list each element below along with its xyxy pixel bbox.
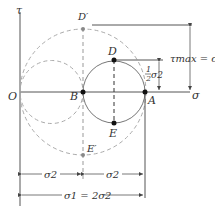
dim-right-label: σ2 [106,169,119,180]
half-sigma-sym: σ2 [151,70,163,80]
point-e-prime [81,153,85,157]
dim-left-label: σ2 [44,169,57,180]
sigma-axis-label: σ [192,89,200,102]
point-d-prime [81,27,85,31]
point-a [143,90,148,95]
label-a: A [147,94,156,107]
tau-max-label: τmax = σ2 [170,53,215,64]
label-b: B [69,90,78,103]
point-d [112,58,117,63]
tau-axis-label: τ [16,4,23,17]
label-e-prime: E′ [86,143,97,154]
label-d-prime: D′ [77,11,89,22]
label-d: D [107,45,117,58]
dim-total-label: σ1 = 2σ2 [64,190,111,201]
mohr-circle-diagram: τ σ O B A D E D′ E′ τmax = σ2 1 2 σ2 σ2 … [0,0,215,213]
label-e: E [108,127,117,140]
point-b [81,90,86,95]
point-e [112,121,117,126]
label-o: O [8,90,17,103]
